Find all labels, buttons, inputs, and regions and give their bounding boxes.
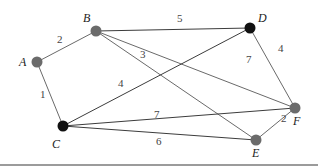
edge-weight-e-f: 2 bbox=[281, 112, 287, 124]
edge-weight-c-d: 4 bbox=[118, 77, 124, 89]
edge-a-b bbox=[37, 31, 96, 62]
node-a bbox=[32, 57, 43, 68]
node-b bbox=[91, 26, 102, 37]
edge-weight-a-c: 1 bbox=[40, 88, 46, 100]
edge-weight-d-f: 4 bbox=[278, 42, 284, 54]
edge-weight-c-f: 7 bbox=[154, 108, 160, 120]
edge-c-f bbox=[63, 108, 295, 126]
weighted-graph-diagram: 2157347642 ABCDEF bbox=[0, 0, 318, 167]
edge-e-f bbox=[256, 108, 295, 140]
node-e bbox=[251, 135, 262, 146]
edge-d-f bbox=[250, 28, 295, 108]
node-f bbox=[290, 103, 301, 114]
edge-weight-a-b: 2 bbox=[57, 33, 63, 45]
edge-weight-c-e: 6 bbox=[156, 135, 162, 147]
edge-weight-b-e: 3 bbox=[140, 48, 146, 60]
edge-b-f bbox=[96, 31, 295, 108]
node-label-a: A bbox=[18, 55, 27, 69]
node-label-d: D bbox=[257, 11, 267, 25]
edge-b-d bbox=[96, 28, 250, 31]
node-label-e: E bbox=[251, 146, 260, 160]
node-label-c: C bbox=[52, 137, 61, 151]
node-d bbox=[245, 23, 256, 34]
node-c bbox=[58, 121, 69, 132]
edge-weight-b-f: 7 bbox=[246, 53, 252, 65]
edges-layer bbox=[37, 28, 295, 140]
edge-weight-b-d: 5 bbox=[177, 12, 183, 24]
node-label-f: F bbox=[292, 114, 301, 128]
node-label-b: B bbox=[83, 11, 91, 25]
